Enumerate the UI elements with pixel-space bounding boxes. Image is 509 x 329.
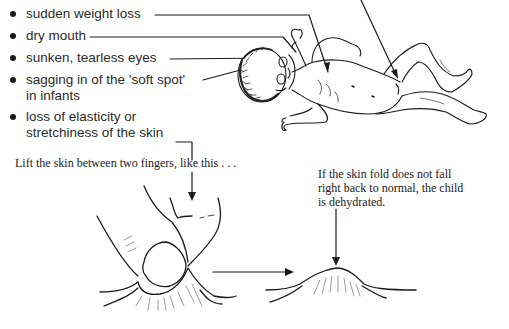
illustration-canvas	[0, 0, 509, 329]
pinch-illustration	[97, 186, 236, 310]
leader-lines	[90, 0, 398, 276]
dehydrated-child-illustration	[238, 29, 486, 130]
